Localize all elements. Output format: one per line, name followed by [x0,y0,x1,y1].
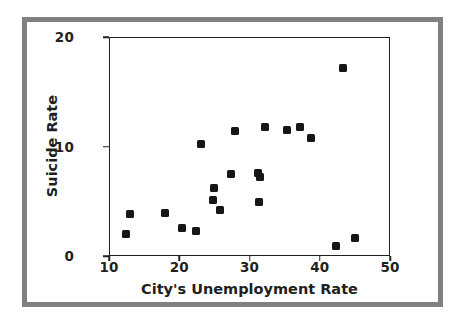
x-tick-label: 10 [99,259,118,275]
scatter-chart: 1020304050 01020 City's Unemployment Rat… [0,0,465,328]
data-point [216,206,224,214]
x-tick-mark [319,256,321,261]
data-point [307,134,315,142]
y-tick-mark [103,255,109,257]
x-tick-label: 20 [170,259,189,275]
data-point [351,234,359,242]
data-point [255,198,263,206]
y-tick-mark [103,36,109,38]
figure-root: 1020304050 01020 City's Unemployment Rat… [0,0,465,328]
data-point [256,173,264,181]
x-tick-label: 50 [380,259,399,275]
x-tick-mark [108,256,110,261]
x-tick-mark [249,256,251,261]
x-tick-label: 30 [240,259,259,275]
data-point [126,210,134,218]
data-point [296,123,304,131]
data-point [332,242,340,250]
y-tick-label: 20 [0,29,74,45]
y-tick-label: 0 [0,248,74,264]
data-point [231,127,239,135]
data-point [339,64,347,72]
data-point [209,196,217,204]
data-point [161,209,169,217]
x-axis-title: City's Unemployment Rate [109,281,390,297]
y-tick-label: 10 [0,139,74,155]
data-point [261,123,269,131]
y-axis-title: Suicide Rate [44,95,60,197]
plot-data-area [109,37,390,256]
y-tick-mark [103,146,109,148]
data-point [283,126,291,134]
x-tick-label: 40 [310,259,329,275]
x-tick-mark [389,256,391,261]
data-point [227,170,235,178]
data-point [210,184,218,192]
x-tick-mark [179,256,181,261]
data-point [122,230,130,238]
data-point [197,140,205,148]
data-point [192,227,200,235]
data-point [178,224,186,232]
